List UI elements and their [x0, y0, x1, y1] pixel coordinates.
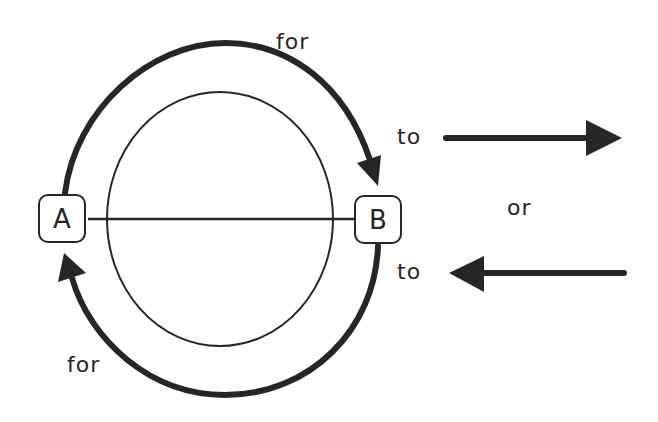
top-arrowhead-icon: [357, 155, 381, 186]
right-arrowhead-icon: [586, 120, 622, 156]
left-arrow-label: to: [397, 261, 421, 283]
node-b-label: B: [369, 205, 387, 235]
node-b: B: [354, 195, 402, 244]
left-arrowhead-icon: [449, 256, 484, 292]
top-arc-label: for: [276, 31, 309, 53]
node-a: A: [38, 194, 86, 243]
right-arrow-label: to: [397, 126, 421, 148]
or-separator-label: or: [507, 197, 532, 219]
node-a-label: A: [53, 204, 71, 234]
bottom-arc-label: for: [67, 354, 100, 376]
bottom-arc-arrow: [72, 246, 378, 395]
